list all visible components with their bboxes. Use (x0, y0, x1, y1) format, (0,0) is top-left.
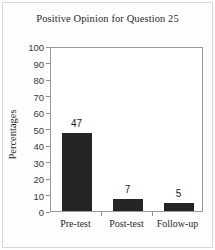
bar (164, 203, 194, 211)
y-axis-tick-label: 60 (33, 108, 44, 119)
y-axis-tick-label: 70 (33, 91, 44, 102)
x-axis-tick-mark (101, 212, 102, 216)
x-axis-tick-label: Pre-test (60, 218, 91, 229)
x-axis-tick-mark (152, 212, 153, 216)
bar (113, 199, 143, 211)
y-axis-tick-label: 10 (33, 190, 44, 201)
x-axis-tick-label: Follow-up (157, 218, 199, 229)
bar-value-label: 5 (176, 188, 182, 199)
y-axis-tick-labels: 1009080706050403020100 (14, 47, 44, 212)
y-axis-tick-label: 100 (28, 42, 44, 53)
bar-group: 47 (51, 48, 102, 211)
y-axis-tick-label: 80 (33, 75, 44, 86)
chart-title: Positive Opinion for Question 25 (0, 13, 215, 24)
y-axis-tick-label: 50 (33, 124, 44, 135)
y-axis-tick-label: 0 (39, 207, 44, 218)
plot-area: 4775 (50, 47, 203, 212)
bars-layer: 4775 (51, 48, 202, 211)
x-axis-tick-marks (50, 212, 203, 216)
bar-value-label: 47 (71, 118, 82, 129)
chart-figure: Positive Opinion for Question 25 Percent… (0, 0, 215, 250)
bar (62, 133, 92, 211)
x-axis-tick-label: Post-test (109, 218, 143, 229)
y-axis-tick-label: 40 (33, 141, 44, 152)
y-axis-tick-label: 20 (33, 174, 44, 185)
x-axis-tick-labels: Pre-testPost-testFollow-up (50, 218, 203, 234)
bar-value-label: 7 (125, 184, 131, 195)
y-axis-tick-label: 90 (33, 58, 44, 69)
bar-group: 7 (102, 48, 153, 211)
y-axis-tick-label: 30 (33, 157, 44, 168)
bar-group: 5 (153, 48, 204, 211)
